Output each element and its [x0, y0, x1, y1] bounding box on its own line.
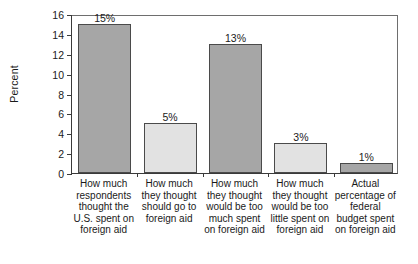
category-label-line: on foreign aid	[334, 224, 397, 236]
category-label-line: thought the	[72, 201, 135, 213]
category-label-line: foreign aid	[268, 224, 331, 236]
category-label-line: foreign aid	[137, 213, 200, 225]
category-label-line: percentage of	[334, 190, 397, 202]
y-tick-label: 2	[38, 148, 64, 161]
bar	[209, 44, 262, 173]
category-label-line: How much	[72, 178, 135, 190]
bar	[274, 143, 327, 173]
y-tick-label: 16	[38, 9, 64, 22]
category-label-line: they thought	[203, 190, 266, 202]
category-label-line: foreign aid	[72, 224, 135, 236]
bar	[78, 24, 131, 173]
category-label-line: federal	[334, 201, 397, 213]
y-axis-title: Percent	[8, 44, 20, 124]
y-tick-label: 6	[38, 108, 64, 121]
category-label-line: should go to	[137, 201, 200, 213]
category-label-line: would be too	[268, 201, 331, 213]
category-label-line: Actual	[334, 178, 397, 190]
category-label-line: budget spent	[334, 213, 397, 225]
y-tick-mark	[67, 75, 72, 76]
y-tick-mark	[67, 134, 72, 135]
category-label-line: on foreign aid	[203, 224, 266, 236]
x-axis-category-label: How muchthey thoughtwould be toolittle s…	[267, 178, 332, 236]
category-label-line: they thought	[137, 190, 200, 202]
y-tick-mark	[67, 154, 72, 155]
x-axis-tick	[203, 173, 204, 177]
y-tick-mark	[67, 15, 72, 16]
y-tick-label: 8	[38, 89, 64, 102]
y-tick-label: 14	[38, 29, 64, 42]
bar	[340, 163, 393, 173]
category-label-line: How much	[203, 178, 266, 190]
y-tick-mark	[67, 55, 72, 56]
y-tick-label: 0	[38, 168, 64, 181]
bar-value-label: 5%	[145, 111, 195, 123]
category-label-line: How much	[268, 178, 331, 190]
bar-value-label: 3%	[276, 131, 326, 143]
bar-value-label: 15%	[80, 12, 130, 24]
x-axis-category-label: How muchthey thoughtshould go toforeign …	[136, 178, 201, 236]
y-tick-label: 10	[38, 69, 64, 82]
category-label-line: little spent on	[268, 213, 331, 225]
x-axis-category-label: How muchrespondentsthought theU.S. spent…	[71, 178, 136, 236]
bar-chart: Percent 024681012141615%5%13%3%1% How mu…	[0, 0, 418, 264]
y-tick-label: 4	[38, 128, 64, 141]
category-label-line: much spent	[203, 213, 266, 225]
x-axis-category-label: How muchthey thoughtwould be toomuch spe…	[202, 178, 267, 236]
y-tick-mark	[67, 95, 72, 96]
y-tick-mark	[67, 174, 72, 175]
x-axis-category-label: Actualpercentage offederalbudget spenton…	[333, 178, 398, 236]
x-axis-tick	[268, 173, 269, 177]
plot-area: 024681012141615%5%13%3%1%	[71, 15, 398, 174]
y-tick-label: 12	[38, 49, 64, 62]
x-axis-tick	[137, 173, 138, 177]
category-label-line: respondents	[72, 190, 135, 202]
category-label-line: U.S. spent on	[72, 213, 135, 225]
y-tick-mark	[67, 35, 72, 36]
x-axis-tick	[334, 173, 335, 177]
bar	[144, 123, 197, 173]
bar-value-label: 1%	[341, 151, 391, 163]
category-label-line: they thought	[268, 190, 331, 202]
category-label-line: How much	[137, 178, 200, 190]
y-tick-mark	[67, 114, 72, 115]
bar-value-label: 13%	[211, 32, 261, 44]
x-axis-category-labels: How muchrespondentsthought theU.S. spent…	[71, 178, 398, 236]
category-label-line: would be too	[203, 201, 266, 213]
